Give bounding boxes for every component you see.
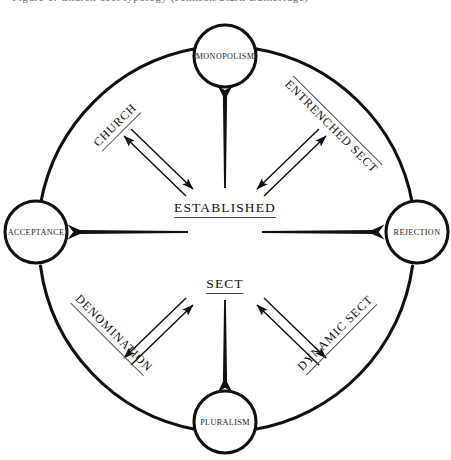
axis-arrow-left bbox=[68, 225, 189, 240]
center-label-sect: SECT bbox=[206, 276, 243, 294]
typology-diagram: Figure 1. Church-sect typology (Johnson/… bbox=[0, 0, 451, 460]
arrow-tl-outward bbox=[131, 129, 193, 189]
arrow-tr-outward bbox=[257, 129, 319, 189]
axis-arrow-right bbox=[262, 225, 385, 240]
center-label-established-text: ESTABLISHED bbox=[174, 200, 276, 218]
center-label-established: ESTABLISHED bbox=[174, 200, 276, 218]
arrow-pair-top-left bbox=[124, 129, 193, 196]
node-label-pluralism: PLURALISM bbox=[200, 418, 250, 427]
caption-text: Figure 1. Church-sect typology (Johnson/… bbox=[12, 0, 309, 3]
node-label-monopolism: MONOPOLISM bbox=[196, 52, 255, 61]
arrow-tr-inward bbox=[264, 136, 326, 196]
center-label-sect-text: SECT bbox=[206, 276, 243, 294]
node-label-rejection: REJECTION bbox=[394, 228, 441, 237]
arrow-tl-inward bbox=[124, 136, 186, 196]
axis-arrow-up bbox=[218, 86, 233, 189]
arrow-pair-top-right bbox=[257, 129, 326, 196]
node-label-acceptance: ACCEPTANCE bbox=[8, 228, 65, 237]
node-circles bbox=[5, 25, 448, 453]
diagram-canvas bbox=[0, 0, 451, 460]
axis-arrow-down bbox=[218, 300, 233, 393]
cut-off-caption: Figure 1. Church-sect typology (Johnson/… bbox=[0, 0, 451, 7]
